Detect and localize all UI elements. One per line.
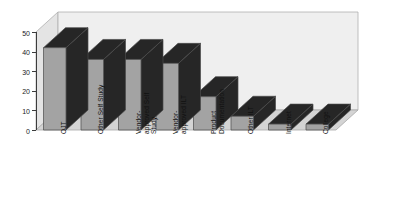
y-axis-tick: 0 xyxy=(32,130,36,131)
x-axis-category-label: Product Documentation xyxy=(210,89,225,134)
bar-group xyxy=(44,28,89,130)
y-axis-tick-label: 0 xyxy=(26,127,30,134)
x-axis-category-label: Other ILT xyxy=(247,106,255,134)
x-axis-category-label: OJT xyxy=(60,121,68,134)
bar-front-face xyxy=(44,48,67,130)
x-axis-category-label: Internet xyxy=(285,111,293,134)
x-axis-category-label: Vendor- approved ILT xyxy=(172,95,187,134)
x-axis-category-label: College xyxy=(322,111,330,134)
y-axis-tick: 30 xyxy=(32,71,36,72)
y-axis-tick-label: 10 xyxy=(22,107,30,114)
y-axis-tick: 40 xyxy=(32,52,36,53)
y-axis-tick: 50 xyxy=(32,32,36,33)
y-axis-tick-label: 50 xyxy=(22,29,30,36)
y-axis-tick-label: 20 xyxy=(22,88,30,95)
y-axis-tick: 10 xyxy=(32,110,36,111)
y-axis-tick-label: 30 xyxy=(22,68,30,75)
y-axis-tick-label: 40 xyxy=(22,49,30,56)
y-axis-line xyxy=(36,32,37,130)
bars-layer xyxy=(0,0,393,197)
x-axis-category-label: Vendor- approved Self Study xyxy=(135,93,158,134)
x-axis-category-label: Other Self Study xyxy=(97,85,105,134)
chart-container: 01020304050 OJTOther Self StudyVendor- a… xyxy=(0,0,393,197)
y-axis-tick: 20 xyxy=(32,91,36,92)
